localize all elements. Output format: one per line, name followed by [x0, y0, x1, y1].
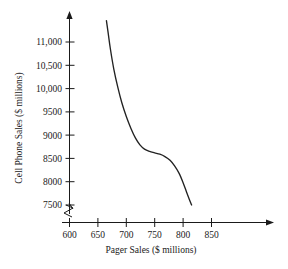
- y-axis-title: Cell Phone Sales ($ millions): [14, 72, 25, 183]
- x-axis-tick-labels: 600 650 700 750 800 850: [62, 230, 219, 240]
- y-tick-label-9000: 9000: [43, 131, 62, 141]
- y-tick-label-8000: 8000: [43, 177, 62, 187]
- y-tick-label-7500: 7500: [43, 200, 62, 210]
- x-tick-label-750: 750: [148, 230, 163, 240]
- y-axis: [66, 11, 72, 214]
- x-axis-arrowhead-icon: [266, 219, 274, 225]
- data-series-line: [106, 21, 191, 205]
- x-axis: [62, 219, 274, 225]
- y-tick-label-8500: 8500: [43, 154, 62, 164]
- y-axis-tick-labels: 11,000 10,500 10,000 9500 9000 8500 8000…: [36, 37, 62, 210]
- y-axis-arrowhead-icon: [66, 11, 72, 19]
- x-axis-title: Pager Sales ($ millions): [105, 245, 196, 256]
- y-tick-label-11000: 11,000: [36, 37, 62, 47]
- x-tick-label-800: 800: [176, 230, 191, 240]
- chart-plot-area: 11,000 10,500 10,000 9500 9000 8500 8000…: [0, 0, 288, 269]
- y-tick-label-9500: 9500: [43, 107, 62, 117]
- x-tick-label-700: 700: [119, 230, 134, 240]
- x-tick-label-600: 600: [62, 230, 77, 240]
- x-tick-label-850: 850: [204, 230, 219, 240]
- x-tick-label-650: 650: [91, 230, 106, 240]
- y-tick-label-10500: 10,500: [36, 61, 62, 71]
- chart-container: 11,000 10,500 10,000 9500 9000 8500 8000…: [0, 0, 288, 269]
- y-tick-label-10000: 10,000: [36, 84, 62, 94]
